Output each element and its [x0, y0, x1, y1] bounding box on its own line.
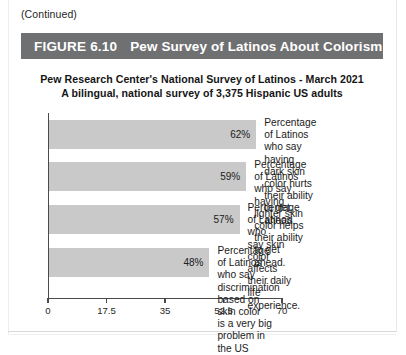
- x-tick-mark: [106, 298, 107, 303]
- bar-category-label: Percentage of Latinos who say discrimina…: [217, 245, 279, 355]
- x-tick-mark: [164, 298, 165, 303]
- x-tick-label: 35: [160, 305, 171, 316]
- x-tick-label: 17.5: [97, 305, 116, 316]
- x-tick-mark: [47, 298, 48, 303]
- bar-value-label: 48%: [49, 248, 203, 277]
- bar-value-label: 59%: [49, 162, 240, 191]
- bar-value-label: 57%: [49, 205, 234, 234]
- bar-value-label: 62%: [49, 120, 250, 149]
- x-tick-label: 0: [45, 305, 50, 316]
